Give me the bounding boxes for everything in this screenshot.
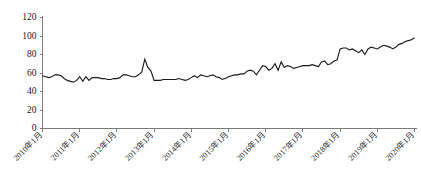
line-chart: 020406080100120 2010年1月2011年1月2012年1月201… [0, 0, 421, 182]
data-series-line [43, 38, 415, 82]
plot-area [43, 38, 415, 82]
x-axis: 2010年1月2011年1月2012年1月2013年1月2014年1月2015年… [11, 129, 416, 163]
y-tick-label: 40 [27, 86, 37, 96]
y-axis: 020406080100120 [22, 12, 42, 133]
y-tick-label: 20 [27, 105, 37, 115]
x-tick-label: 2014年1月 [160, 130, 193, 163]
x-tick-label: 2010年1月 [11, 130, 44, 163]
x-tick-label: 2012年1月 [85, 130, 118, 163]
x-tick-label: 2018年1月 [309, 130, 342, 163]
y-axis-tick-labels: 020406080100120 [22, 12, 37, 133]
y-tick-label: 60 [27, 68, 37, 78]
x-tick-label: 2015年1月 [197, 130, 230, 163]
x-axis-tick-labels: 2010年1月2011年1月2012年1月2013年1月2014年1月2015年… [11, 130, 416, 163]
chart-container: 020406080100120 2010年1月2011年1月2012年1月201… [0, 0, 421, 182]
y-tick-label: 100 [22, 31, 37, 41]
x-tick-label: 2016年1月 [234, 130, 267, 163]
x-tick-label: 2011年1月 [48, 130, 81, 163]
x-tick-label: 2013年1月 [123, 130, 156, 163]
x-tick-label: 2019年1月 [346, 130, 379, 163]
x-tick-label: 2017年1月 [271, 130, 304, 163]
y-tick-label: 120 [22, 12, 37, 22]
x-tick-label: 2020年1月 [383, 130, 416, 163]
y-tick-label: 80 [27, 49, 37, 59]
